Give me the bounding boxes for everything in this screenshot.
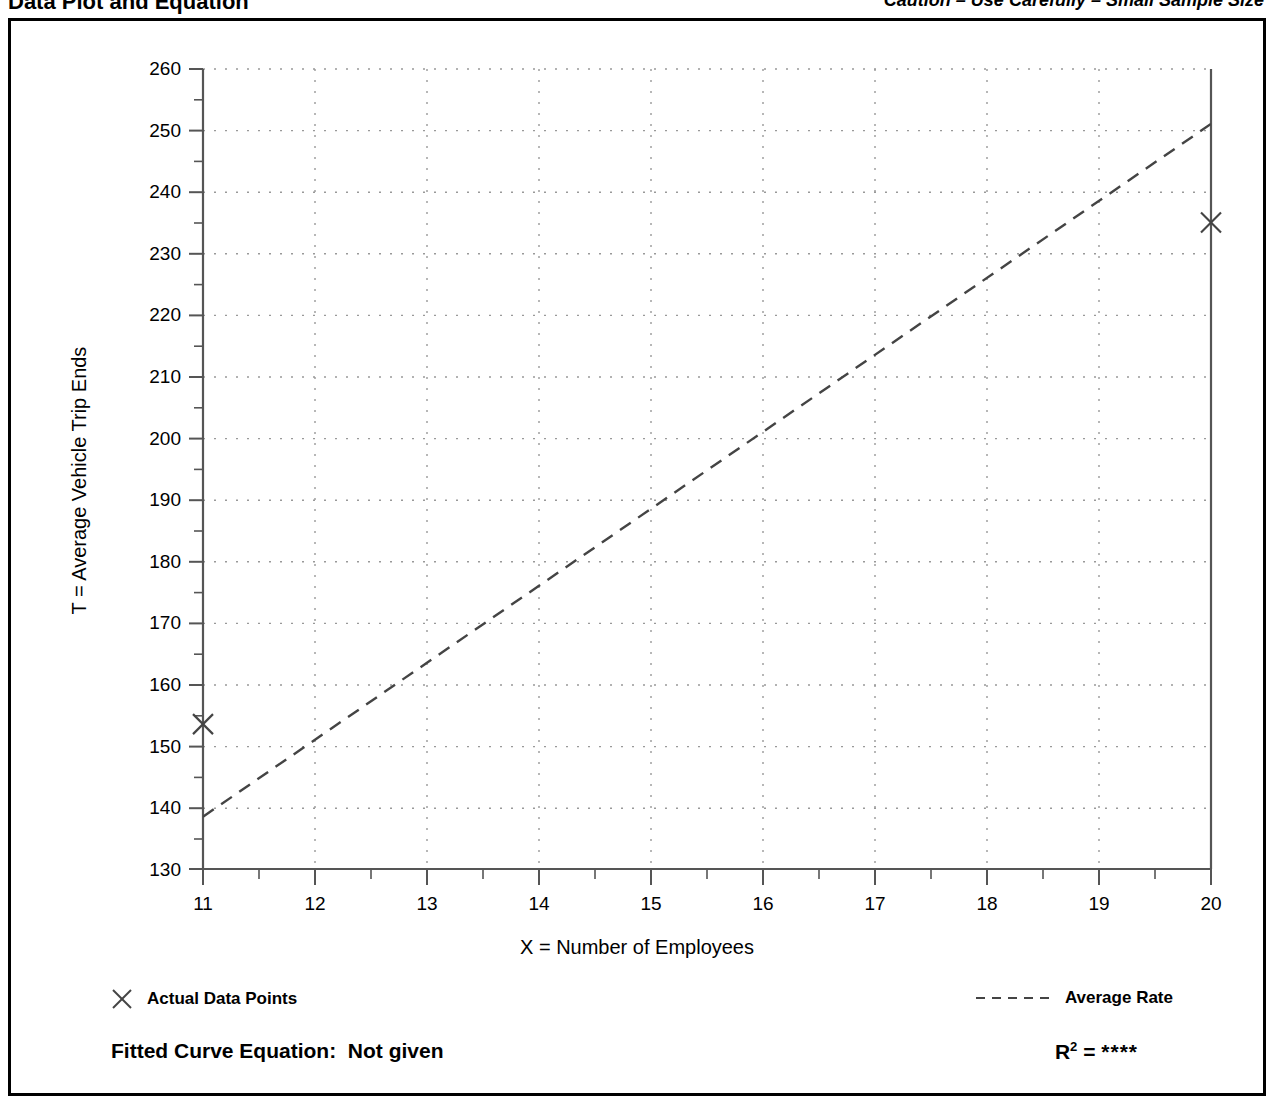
r-squared-label: R xyxy=(1055,1040,1070,1063)
x-tick-label: 11 xyxy=(173,893,233,915)
y-tick-label: 260 xyxy=(129,58,181,80)
r-squared-equals: = xyxy=(1083,1040,1095,1063)
plot-background xyxy=(203,69,1211,869)
legend-label-actual-data-points: Actual Data Points xyxy=(147,989,297,1009)
page-header: Data Plot and Equation Caution – Use Car… xyxy=(0,0,1276,16)
x-tick-label: 13 xyxy=(397,893,457,915)
r-squared-result: **** xyxy=(1101,1040,1138,1063)
y-tick-label: 220 xyxy=(129,304,181,326)
chart-panel-frame: 260 250 240 230 220 210 200 190 180 170 … xyxy=(8,18,1266,1096)
x-marker-icon xyxy=(111,988,133,1010)
page-title: Data Plot and Equation xyxy=(8,0,249,15)
x-tick-label: 17 xyxy=(845,893,905,915)
x-tick-label: 16 xyxy=(733,893,793,915)
x-minor-ticks xyxy=(259,869,1155,879)
y-tick-label: 200 xyxy=(129,428,181,450)
legend-item-actual-data-points: Actual Data Points xyxy=(111,988,297,1010)
equation-row: Fitted Curve Equation: Not given R2 = **… xyxy=(11,1039,1263,1079)
legend-item-average-rate: Average Rate xyxy=(975,988,1173,1008)
legend-label-average-rate: Average Rate xyxy=(1065,988,1173,1008)
y-tick-label: 180 xyxy=(129,551,181,573)
y-tick-label: 230 xyxy=(129,243,181,265)
y-tick-label: 160 xyxy=(129,674,181,696)
chart-legend: Actual Data Points Average Rate xyxy=(11,988,1263,1022)
x-tick-label: 20 xyxy=(1181,893,1241,915)
x-tick-label: 12 xyxy=(285,893,345,915)
fitted-curve-equation: Fitted Curve Equation: Not given xyxy=(111,1039,444,1063)
r-squared-exponent: 2 xyxy=(1070,1039,1077,1054)
x-tick-label: 19 xyxy=(1069,893,1129,915)
y-tick-label: 140 xyxy=(129,797,181,819)
y-tick-label: 250 xyxy=(129,120,181,142)
y-tick-label: 170 xyxy=(129,612,181,634)
y-axis-title: T = Average Vehicle Trip Ends xyxy=(68,221,91,741)
y-tick-label: 240 xyxy=(129,181,181,203)
x-tick-label: 18 xyxy=(957,893,1017,915)
x-tick-label: 15 xyxy=(621,893,681,915)
x-axis-title: X = Number of Employees xyxy=(11,936,1263,959)
y-tick-label: 150 xyxy=(129,736,181,758)
x-tick-label: 14 xyxy=(509,893,569,915)
fitted-curve-equation-value: Not given xyxy=(348,1039,444,1062)
y-tick-label: 210 xyxy=(129,366,181,388)
fitted-curve-equation-label: Fitted Curve Equation: xyxy=(111,1039,336,1062)
dashed-line-icon xyxy=(975,994,1051,1002)
r-squared-value: R2 = **** xyxy=(1055,1039,1138,1064)
caution-note: Caution – Use Carefully – Small Sample S… xyxy=(884,0,1264,11)
scatter-plot xyxy=(11,21,1263,921)
chart-area: 260 250 240 230 220 210 200 190 180 170 … xyxy=(11,21,1263,1093)
y-tick-label: 130 xyxy=(129,859,181,881)
y-tick-label: 190 xyxy=(129,489,181,511)
